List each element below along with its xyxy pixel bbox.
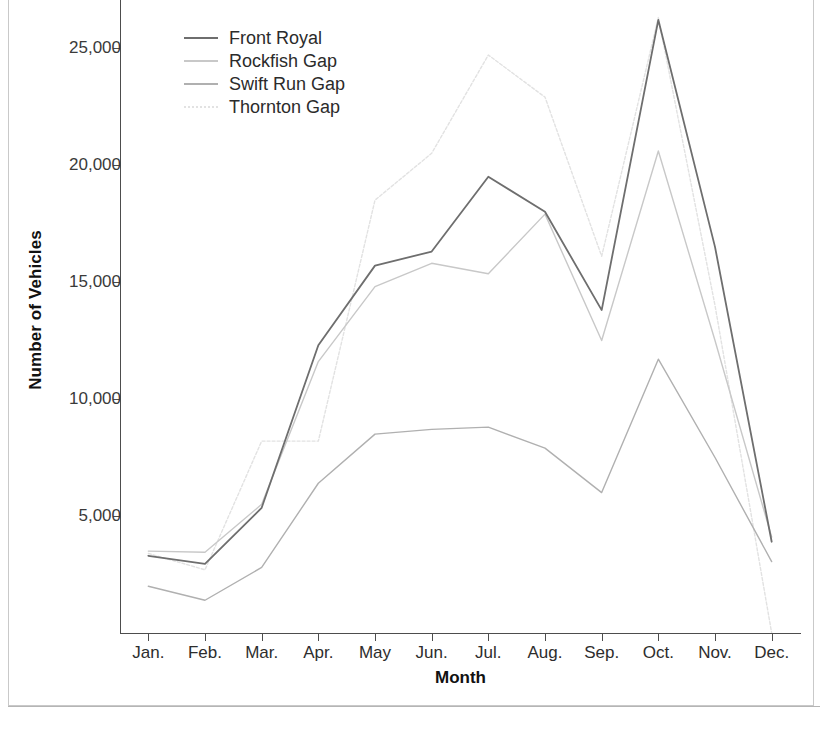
x-tick-mark: [772, 633, 773, 641]
legend-swatch-icon: [184, 83, 218, 85]
legend-label: Rockfish Gap: [229, 50, 337, 72]
legend-item: Rockfish Gap: [184, 49, 414, 72]
legend-swatch-icon: [184, 37, 218, 39]
legend-item: Front Royal: [184, 26, 414, 49]
legend-label: Swift Run Gap: [229, 73, 345, 95]
x-tick-mark: [262, 633, 263, 641]
legend-swatch-icon: [184, 60, 218, 62]
legend-label: Front Royal: [229, 27, 322, 49]
x-tick-mark: [432, 633, 433, 641]
x-tick-mark: [602, 633, 603, 641]
x-axis-title: Month: [120, 668, 801, 688]
x-tick-mark: [715, 633, 716, 641]
x-tick-mark: [318, 633, 319, 641]
x-tick-mark: [658, 633, 659, 641]
legend-label: Thornton Gap: [229, 96, 340, 118]
line-chart-figure: 5,00010,00015,00020,00025,000 Number of …: [0, 0, 820, 708]
x-tick-mark: [488, 633, 489, 641]
legend-item: Thornton Gap: [184, 95, 414, 118]
x-tick-mark: [148, 633, 149, 641]
chart-legend: Front RoyalRockfish GapSwift Run GapThor…: [184, 26, 414, 118]
x-tick-mark: [545, 633, 546, 641]
x-tick-mark: [375, 633, 376, 641]
page-bottom-text: [28, 736, 588, 745]
x-tick-mark: [205, 633, 206, 641]
legend-swatch-icon: [184, 106, 218, 108]
legend-item: Swift Run Gap: [184, 72, 414, 95]
x-tick-label: Dec.: [737, 643, 807, 663]
